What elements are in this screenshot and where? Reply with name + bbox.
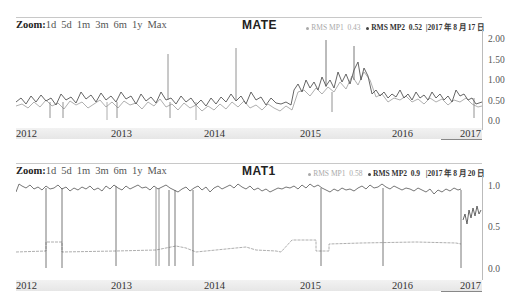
series-dot-icon <box>308 173 311 176</box>
series-dot-icon <box>366 27 369 30</box>
navigator-bar[interactable]: 2012 2013 2014 2015 2016 2017 <box>16 280 482 291</box>
legend-item-mp1[interactable]: RMS MP1 0.43 <box>306 23 360 32</box>
y-axis-line <box>482 30 483 130</box>
legend-item-mp2[interactable]: RMS MP2 0.52 <box>366 23 422 32</box>
zoom-3m[interactable]: 3m <box>95 165 108 176</box>
chart-panel-mat1: Zoom:1d5d1m3m6m1yMax MAT1 RMS MP1 0.58 R… <box>16 146 512 296</box>
series-dot-icon <box>306 27 309 30</box>
zoom-label: Zoom <box>16 165 42 176</box>
zoom-1y[interactable]: 1y <box>132 19 143 30</box>
chart-title: MAT1 <box>242 164 276 178</box>
zoom-1m[interactable]: 1m <box>77 19 90 30</box>
zoom-6m[interactable]: 6m <box>114 19 127 30</box>
zoom-max[interactable]: Max <box>148 19 167 30</box>
zoom-1m[interactable]: 1m <box>77 165 90 176</box>
zoom-bar: Zoom:1d5d1m3m6m1yMax <box>16 19 172 30</box>
navigator-bar[interactable]: 2012 2013 2014 2015 2016 2017 <box>16 128 482 139</box>
plot-area[interactable] <box>16 180 482 276</box>
legend: RMS MP1 0.58 RMS MP2 0.9 |2017 年 8 月 20 … <box>308 167 484 178</box>
navigator-handle[interactable] <box>441 291 482 292</box>
zoom-5d[interactable]: 5d <box>61 165 72 176</box>
zoom-1d[interactable]: 1d <box>46 19 57 30</box>
y-axis-line <box>482 176 483 280</box>
legend-date: 2017 年 8 月 20 日 <box>427 169 484 178</box>
zoom-label: Zoom <box>16 19 42 30</box>
chart-panel-mate: Zoom:1d5d1m3m6m1yMax MATE RMS MP1 0.43 R… <box>16 0 512 146</box>
legend-item-mp1[interactable]: RMS MP1 0.58 <box>308 169 362 178</box>
zoom-1d[interactable]: 1d <box>46 165 57 176</box>
legend: RMS MP1 0.43 RMS MP2 0.52 |2017 年 8 月 17… <box>306 21 484 32</box>
navigator-handle[interactable] <box>441 139 482 140</box>
zoom-max[interactable]: Max <box>148 165 167 176</box>
zoom-1y[interactable]: 1y <box>132 165 143 176</box>
zoom-5d[interactable]: 5d <box>61 19 72 30</box>
legend-date: 2017 年 8 月 17 日 <box>427 23 484 32</box>
chart-title: MATE <box>242 18 277 32</box>
zoom-bar: Zoom:1d5d1m3m6m1yMax <box>16 165 172 176</box>
zoom-3m[interactable]: 3m <box>95 19 108 30</box>
series-dot-icon <box>368 173 371 176</box>
legend-item-mp2[interactable]: RMS MP2 0.9 <box>368 169 420 178</box>
zoom-6m[interactable]: 6m <box>114 165 127 176</box>
plot-area[interactable] <box>16 32 482 128</box>
